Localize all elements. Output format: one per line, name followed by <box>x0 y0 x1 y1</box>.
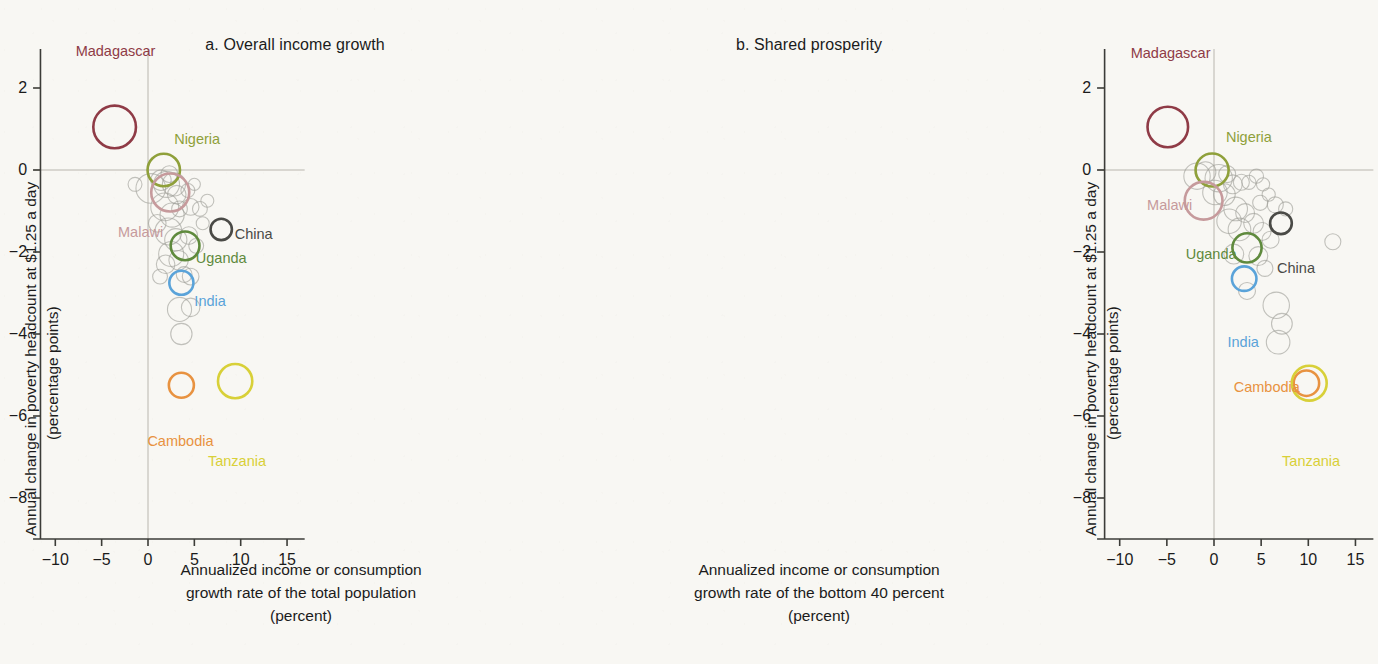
bubble-label-madagascar: Madagascar <box>1131 45 1211 61</box>
bubble-other <box>1253 195 1268 210</box>
bubble-china <box>1270 212 1292 234</box>
panel-b-plot-area: −10−505101520−2−4−6−8MadagascarNigeriaMa… <box>1148 70 1378 530</box>
bubble-label-nigeria: Nigeria <box>174 131 220 147</box>
panel-a-xlabel: Annualized income or consumption growth … <box>0 558 566 627</box>
bubble-other <box>196 217 209 230</box>
panel-a-ylabel-line2: (percentage points) <box>44 306 62 440</box>
panel-b-xlabel-line2: growth rate of the bottom 40 percent <box>550 581 1088 604</box>
panel-a-xlabel-line1: Annualized income or consumption <box>36 558 566 581</box>
panel-b-xlabel: Annualized income or consumption growth … <box>530 558 1088 627</box>
x-tick-label: 10 <box>1299 551 1317 569</box>
panel-b-xlabel-line1: Annualized income or consumption <box>550 558 1088 581</box>
x-tick-label: −5 <box>1158 551 1176 569</box>
bubble-other <box>1262 188 1275 201</box>
y-tick-label: −2 <box>9 243 27 261</box>
bubble-label-madagascar: Madagascar <box>76 43 156 59</box>
bubble-india <box>1232 266 1257 291</box>
bubble-label-nigeria: Nigeria <box>1226 129 1272 145</box>
y-tick-label: −2 <box>1073 243 1091 261</box>
panel-a-xlabel-line3: (percent) <box>36 604 566 627</box>
x-tick-label: −10 <box>1106 551 1133 569</box>
scatter-canvas-a <box>85 70 515 530</box>
bubble-madagascar <box>1148 107 1189 148</box>
x-tick-label: 5 <box>1257 551 1266 569</box>
panel-b-xlabel-line3: (percent) <box>550 604 1088 627</box>
bubble-other <box>182 199 199 216</box>
bubble-label-india: India <box>194 293 225 309</box>
bubble-label-india: India <box>1227 334 1258 350</box>
bubble-other <box>128 177 142 191</box>
panel-a-plot-area: −10−505101520−2−4−6−8MadagascarNigeriaMa… <box>85 70 515 530</box>
panel-b-title: b. Shared prosperity <box>530 36 1078 54</box>
panel-b-ylabel-line1: Annual change in poverty headcount at $1… <box>1082 182 1100 536</box>
bubble-label-uganda: Uganda <box>196 250 247 266</box>
y-tick-label: −6 <box>9 407 27 425</box>
bubble-china <box>211 219 232 240</box>
y-tick-label: −4 <box>9 325 27 343</box>
bubble-label-china: China <box>235 226 273 242</box>
bubble-label-cambodia: Cambodia <box>147 433 213 449</box>
y-tick-label: −8 <box>1073 489 1091 507</box>
bubble-other <box>1228 218 1251 241</box>
x-tick-label: 0 <box>1210 551 1219 569</box>
panel-a-ylabel-line1: Annual change in poverty headcount at $1… <box>22 182 40 536</box>
y-tick-label: 0 <box>18 161 27 179</box>
bubble-label-tanzania: Tanzania <box>208 453 266 469</box>
y-tick-label: −6 <box>1073 407 1091 425</box>
panel-b-ylabel-line2: (percentage points) <box>1104 306 1122 440</box>
bubble-other <box>192 202 207 217</box>
bubble-cambodia <box>169 373 194 398</box>
bubble-label-cambodia: Cambodia <box>1234 379 1300 395</box>
bubble-label-malawi: Malawi <box>1147 197 1192 213</box>
bubble-other <box>1325 234 1341 250</box>
panel-a: a. Overall income growth Annual change i… <box>0 0 530 664</box>
panel-b: b. Shared prosperity Annual change in po… <box>530 0 1068 664</box>
bubble-other <box>156 255 175 274</box>
bubble-label-malawi: Malawi <box>118 224 163 240</box>
bubble-other <box>1217 209 1242 234</box>
bubble-other <box>201 194 214 207</box>
y-tick-label: −8 <box>9 489 27 507</box>
bubble-other <box>1267 197 1283 213</box>
x-tick-label: 15 <box>1347 551 1365 569</box>
bubble-tanzania <box>218 364 252 398</box>
bubble-other <box>167 297 191 321</box>
bubble-label-uganda: Uganda <box>1186 246 1237 262</box>
y-tick-label: 0 <box>1082 161 1091 179</box>
bubble-other <box>171 323 192 344</box>
y-tick-label: 2 <box>1082 79 1091 97</box>
bubble-label-tanzania: Tanzania <box>1282 453 1340 469</box>
y-tick-label: 2 <box>18 79 27 97</box>
y-tick-label: −4 <box>1073 325 1091 343</box>
bubble-label-china: China <box>1277 260 1315 276</box>
bubble-madagascar <box>93 106 136 149</box>
panel-a-xlabel-line2: growth rate of the total population <box>36 581 566 604</box>
bubble-india <box>169 271 193 295</box>
